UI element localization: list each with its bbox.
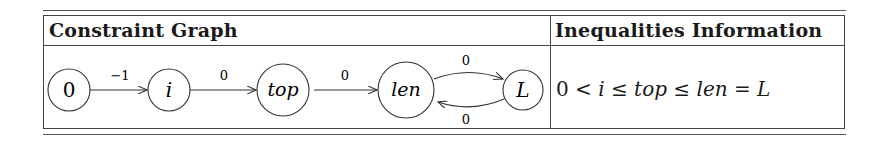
node-top-label: top (267, 78, 298, 100)
edge-len-to-L: 0 (434, 53, 503, 79)
edge-weight: −1 (110, 68, 129, 83)
edge-top-to-len: 0 (314, 68, 377, 90)
edge-weight: 0 (462, 112, 470, 127)
node-0-label: 0 (63, 78, 76, 102)
ineq-op: ≤ (611, 77, 628, 101)
node-0: 0 (48, 69, 90, 111)
ineq-var: top (634, 77, 667, 101)
ineq-token: 0 (556, 77, 569, 101)
bottom-rule (43, 134, 846, 135)
node-top: top (257, 64, 309, 116)
header-inequalities-information: Inequalities Information (555, 19, 822, 41)
edge-weight: 0 (341, 68, 349, 83)
ineq-var: len (696, 77, 727, 101)
ineq-var: L (757, 77, 770, 101)
edge-weight: 0 (462, 53, 470, 68)
node-len: len (378, 62, 434, 118)
edge-weight: 0 (220, 68, 228, 83)
ineq-op: ≤ (673, 77, 690, 101)
ineq-var: i (598, 77, 604, 101)
inequality-expression: 0 < i ≤ top ≤ len = L (556, 77, 770, 101)
node-i-label: i (166, 78, 172, 102)
edge-i-to-top: 0 (190, 68, 256, 90)
node-L: L (503, 70, 543, 110)
node-L-label: L (515, 78, 529, 102)
node-i: i (148, 69, 190, 111)
constraint-graph: 0 i top len L −1 0 (44, 16, 550, 130)
node-len-label: len (391, 78, 421, 100)
ineq-op: = (734, 77, 751, 101)
edge-L-to-len: 0 (438, 99, 504, 127)
constraint-table: Constraint Graph Inequalities Informatio… (43, 15, 845, 129)
top-rule (43, 10, 846, 11)
ineq-op: < (575, 77, 592, 101)
edge-0-to-i: −1 (90, 68, 147, 90)
column-divider (550, 16, 551, 128)
